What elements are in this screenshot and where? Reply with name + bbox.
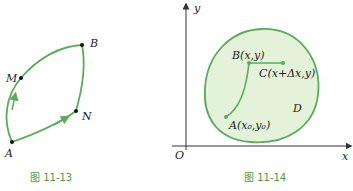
label-N: N <box>81 110 92 123</box>
figures-canvas: A M B N 图 11-13 y x O B(x,y) C(x+Δx,y) A… <box>0 0 353 191</box>
point-C <box>281 61 285 65</box>
label-C: C(x+Δx,y) <box>259 67 315 80</box>
point-N <box>74 109 78 113</box>
point-M <box>19 76 23 80</box>
y-axis-label: y <box>193 2 201 15</box>
arrow-AN <box>54 118 66 125</box>
point-A <box>224 115 228 119</box>
x-axis-label: x <box>342 150 349 163</box>
caption-11-14: 图 11-14 <box>244 172 286 183</box>
caption-11-13: 图 11-13 <box>30 172 72 183</box>
arrow-AM <box>12 96 15 110</box>
label-B: B(x,y) <box>231 49 265 62</box>
figure-11-13: A M B N 图 11-13 <box>4 37 98 183</box>
label-B: B <box>89 37 98 50</box>
curve-ANB <box>12 45 84 142</box>
point-B <box>80 43 84 47</box>
label-A: A(x₀,y₀) <box>228 119 270 132</box>
label-M: M <box>5 72 18 85</box>
label-D: D <box>292 102 302 115</box>
label-A: A <box>4 147 13 160</box>
figure-11-14: y x O B(x,y) C(x+Δx,y) A(x₀,y₀) D 图 11-1… <box>172 2 349 183</box>
point-A <box>10 140 14 144</box>
curve-AMB <box>6 45 82 142</box>
origin-label: O <box>175 149 184 162</box>
